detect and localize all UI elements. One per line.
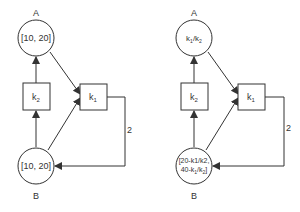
- edge-a-to-k1: [208, 52, 238, 94]
- edge-weight-label: 2: [286, 123, 291, 133]
- edge-a-to-k1: [50, 52, 80, 94]
- node-b-value: [10, 20]: [21, 161, 51, 171]
- node-a-label: A: [191, 8, 197, 18]
- left-diagram: A [10, 20] k2 k1 2 [10, 20] B: [18, 8, 132, 201]
- edge-b-to-k1: [206, 98, 238, 150]
- node-b-label: B: [191, 191, 197, 201]
- edge-weight-label: 2: [127, 125, 132, 135]
- node-b-label: B: [33, 191, 39, 201]
- node-b-value-line1: [20-k1/k2,: [179, 157, 210, 165]
- diagram-canvas: A [10, 20] k2 k1 2 [10, 20] B A k1/k2 k2…: [0, 0, 300, 212]
- right-diagram: A k1/k2 k2 k1 2 [20-k1/k2, 40-k1/k2] B: [176, 8, 291, 201]
- node-a-label: A: [33, 8, 39, 18]
- edge-b-to-k1: [48, 98, 80, 150]
- node-a-value: [10, 20]: [21, 33, 51, 43]
